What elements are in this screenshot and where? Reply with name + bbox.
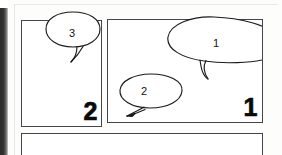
scan-gutter-top-cap bbox=[0, 0, 8, 8]
speech-balloon-1-label: 1 bbox=[204, 38, 228, 49]
comic-panel-3[interactable]: 3 bbox=[21, 133, 263, 155]
speech-balloon-3[interactable]: 3 bbox=[44, 10, 108, 62]
speech-balloon-2-label: 2 bbox=[132, 86, 156, 97]
speech-balloon-2[interactable]: 2 bbox=[118, 72, 184, 117]
panel-number-1: 1 bbox=[244, 95, 257, 120]
speech-balloon-1[interactable]: 1 bbox=[166, 15, 278, 80]
scan-gutter-shadow bbox=[0, 0, 8, 155]
speech-balloon-3-label: 3 bbox=[44, 28, 100, 39]
comic-page: 2 1 3 1 2 bbox=[0, 0, 282, 155]
panel-number-2: 2 bbox=[84, 99, 97, 124]
